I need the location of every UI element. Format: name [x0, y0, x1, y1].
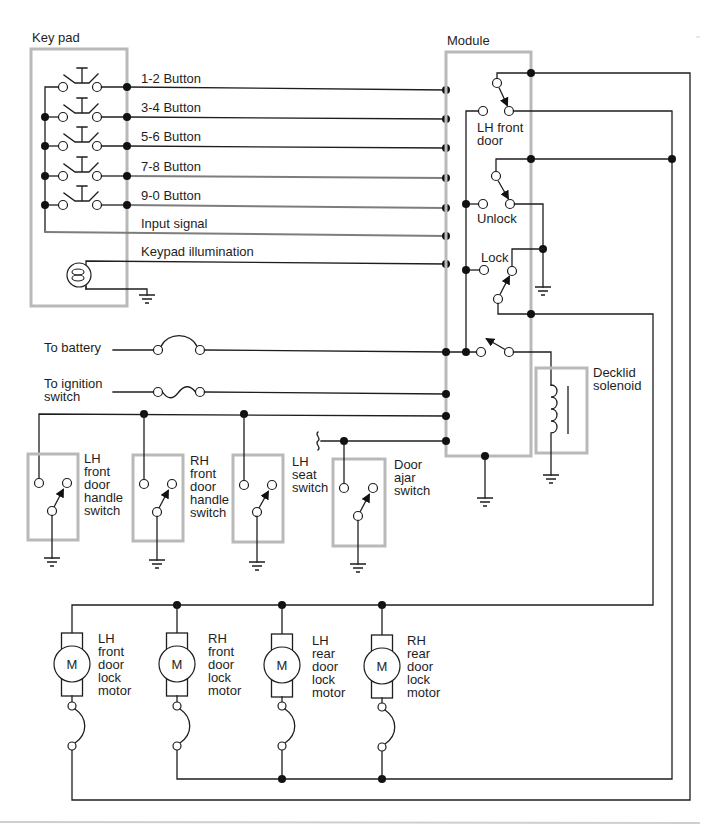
- input-signal-wire: [45, 232, 446, 236]
- button-7-8-label: 7-8 Button: [141, 159, 201, 174]
- ground-icon: [477, 498, 493, 506]
- circuit-breaker-icon: [180, 709, 190, 743]
- button-7-8: 7-8 Button: [41, 157, 450, 182]
- module-title: Module: [447, 33, 490, 48]
- switch-label: LH front door handle switch: [84, 451, 127, 518]
- button-3-4-wire: [102, 117, 447, 119]
- lh-rear-door-lock-motor: M LH rear door lock motor: [264, 605, 346, 750]
- switch-label: LH seat switch: [292, 454, 328, 495]
- battery-label: To battery: [44, 340, 102, 355]
- fuse-icon: [161, 336, 197, 347]
- ground-icon: [535, 287, 551, 295]
- motor-label: RH rear door lock motor: [407, 633, 441, 700]
- motor-symbol: M: [277, 658, 288, 673]
- button-1-2-wire: [102, 87, 447, 90]
- circuit-breaker-icon: [285, 709, 295, 743]
- button-9-0-wire: [127, 205, 446, 208]
- lh-front-door-relay-label: LH front door: [477, 120, 527, 148]
- battery-feed: To battery: [44, 336, 551, 385]
- decklid-solenoid: Decklid solenoid: [536, 365, 641, 483]
- wire-break-icon: [317, 432, 319, 450]
- solenoid-box: [536, 368, 587, 453]
- keypad: Key pad 1-2 Button 3-4 Button: [31, 30, 450, 306]
- pushbutton-switch-icon: [64, 127, 98, 142]
- button-5-6-label: 5-6 Button: [141, 129, 201, 144]
- unlock-label: Unlock: [477, 211, 517, 226]
- button-3-4-label: 3-4 Button: [141, 100, 201, 115]
- button-9-0: 9-0 Button: [41, 186, 450, 212]
- circuit-breaker-icon: [75, 709, 85, 743]
- page-rule: [0, 822, 700, 823]
- door-ajar-switch: Door ajar switch: [317, 432, 450, 572]
- switch-arrow-icon: [360, 494, 370, 512]
- motor-label: LH front door lock motor: [98, 631, 132, 698]
- switch-label: RH front door handle switch: [190, 453, 233, 520]
- pushbutton-switch-icon: [64, 98, 98, 113]
- button-3-4: 3-4 Button: [41, 98, 450, 123]
- button-9-0-label: 9-0 Button: [141, 188, 201, 203]
- pushbutton-switch-icon: [64, 157, 98, 172]
- rh-rear-door-lock-motor: M RH rear door lock motor: [364, 605, 441, 751]
- unlock-feed-wire: [496, 159, 672, 172]
- relay-contact-arrow-icon: [498, 181, 509, 200]
- switch-arrow-icon: [54, 489, 64, 507]
- lh-seat-switch: LH seat switch: [233, 414, 328, 570]
- keypad-title: Key pad: [32, 30, 80, 45]
- ground-icon: [44, 558, 60, 566]
- relay-contact-arrow-icon: [499, 88, 508, 107]
- keypad-common-bus: [45, 87, 59, 232]
- door-lock-wiring-diagram: Key pad 1-2 Button 3-4 Button: [0, 0, 716, 826]
- decklid-label: Decklid solenoid: [593, 365, 641, 393]
- ground-icon: [350, 564, 366, 572]
- switch-arrow-icon: [259, 491, 269, 508]
- solenoid-coil-icon: [551, 385, 557, 475]
- pushbutton-switch-icon: [64, 68, 98, 83]
- button-1-2-label: 1-2 Button: [141, 71, 201, 86]
- switch-arrow-icon: [159, 490, 169, 508]
- lh-front-door-lock-motor: M LH front door lock motor: [54, 631, 132, 750]
- button-5-6: 5-6 Button: [41, 127, 450, 152]
- switch-label: Door ajar switch: [394, 457, 430, 498]
- motor-label: LH rear door lock motor: [312, 633, 346, 700]
- ground-icon: [149, 560, 165, 568]
- relay-contact-arrow-icon: [500, 276, 510, 295]
- ground-icon: [249, 562, 265, 570]
- fuse-icon: [163, 387, 196, 398]
- ignition-feed: To ignition switch: [44, 376, 450, 404]
- button-1-2: 1-2 Button: [59, 68, 451, 94]
- circuit-breaker-icon: [385, 710, 395, 744]
- ignition-label: To ignition switch: [44, 376, 106, 404]
- lock-label: Lock: [481, 250, 509, 265]
- illumination-wire: [86, 261, 446, 289]
- keypad-illumination: Keypad illumination: [67, 244, 450, 303]
- button-7-8-wire: [127, 176, 446, 178]
- rh-front-door-handle-switch: RH front door handle switch: [133, 414, 233, 568]
- illumination-label: Keypad illumination: [141, 244, 254, 259]
- motor-symbol: M: [172, 657, 183, 672]
- decklid-switch-arrow-icon: [486, 339, 505, 350]
- ground-icon: [139, 295, 155, 303]
- lh-front-door-handle-switch: LH front door handle switch: [28, 451, 127, 566]
- motor-symbol: M: [67, 657, 78, 672]
- rh-front-door-lock-motor: M RH front door lock motor: [159, 605, 242, 750]
- input-signal-label: Input signal: [141, 216, 208, 231]
- unlock-relay: Unlock: [462, 155, 676, 295]
- motor-label: RH front door lock motor: [208, 631, 242, 698]
- pushbutton-switch-icon: [64, 186, 98, 201]
- button-5-6-wire: [102, 146, 447, 148]
- motor-symbol: M: [377, 659, 388, 674]
- ground-icon: [543, 475, 559, 483]
